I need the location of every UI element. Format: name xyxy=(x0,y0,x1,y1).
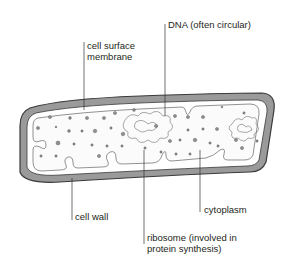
label-line: DNA (often circular) xyxy=(168,19,251,30)
label-ribosome: ribosome (involved in protein synthesis) xyxy=(147,232,237,254)
label-line: membrane xyxy=(87,51,135,62)
label-line: ribosome (involved in xyxy=(147,232,237,243)
label-line: cell surface xyxy=(87,40,135,51)
label-cell-wall: cell wall xyxy=(75,211,108,222)
label-dna: DNA (often circular) xyxy=(168,19,251,30)
label-line: protein synthesis) xyxy=(147,243,237,254)
label-line: cell wall xyxy=(75,211,108,222)
label-line: cytoplasm xyxy=(204,204,247,215)
label-cell-surface-membrane: cell surface membrane xyxy=(87,40,135,62)
label-cytoplasm: cytoplasm xyxy=(204,204,247,215)
prokaryotic-cell-diagram xyxy=(0,0,290,266)
